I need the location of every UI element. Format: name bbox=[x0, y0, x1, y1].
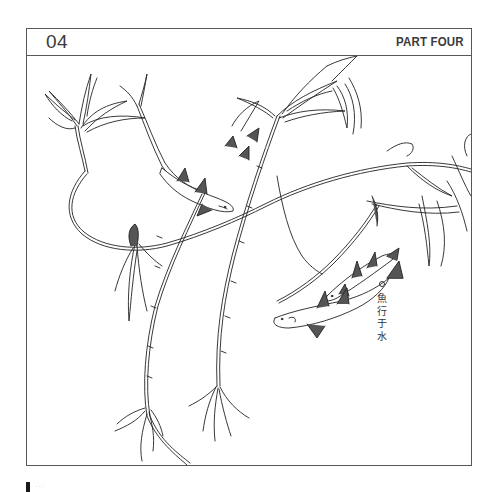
chapter-number: 04 bbox=[46, 30, 68, 54]
fish-left bbox=[160, 168, 233, 216]
page-marker-text: ··· bbox=[35, 483, 45, 490]
willow-roots-center bbox=[189, 386, 249, 441]
caption-char: 行 bbox=[377, 306, 387, 319]
circle-bullet-icon bbox=[379, 281, 385, 287]
page-header: 04 PART FOUR bbox=[27, 29, 471, 56]
willow-roots-left bbox=[115, 408, 163, 461]
part-label: PART FOUR bbox=[396, 34, 464, 50]
willow-fish-illustration bbox=[27, 56, 471, 465]
fish-upper-center bbox=[225, 101, 259, 160]
page-marker-bar bbox=[26, 482, 30, 492]
page-frame: 04 PART FOUR bbox=[26, 28, 472, 466]
willow-leaves-upper-left bbox=[45, 74, 145, 132]
caption-char: 水 bbox=[377, 331, 387, 344]
caption-char: 于 bbox=[377, 318, 387, 331]
thin-stem-mid bbox=[277, 176, 322, 274]
vertical-caption: 魚 行 于 水 bbox=[375, 281, 389, 343]
caption-char: 魚 bbox=[377, 293, 387, 306]
willow-leaves-right bbox=[367, 134, 471, 266]
willow-leaves-upper-center bbox=[237, 56, 361, 134]
willow-stem-right-hanging bbox=[277, 196, 379, 303]
